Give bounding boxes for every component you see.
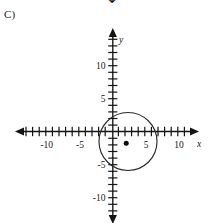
circle-center-point	[124, 141, 129, 146]
y-tick-label-5: 5	[101, 94, 106, 104]
x-axis-left-arrow-icon	[15, 127, 24, 135]
x-axis-label: x	[196, 139, 202, 149]
y-tick-label-10: 10	[96, 61, 106, 71]
x-axis-right-arrow-icon	[190, 127, 199, 135]
y-tick-label-neg10: -10	[93, 193, 106, 203]
coordinate-plane-svg: -10 -5 5 10 x	[0, 0, 214, 223]
y-axis-down-arrow-icon	[109, 215, 117, 223]
y-tick-label-neg5: -5	[98, 160, 106, 170]
y-axis: 10 5 -5 -10 y	[93, 28, 124, 223]
x-tick-label-neg5: -5	[76, 140, 84, 150]
y-axis-up-arrow-icon	[109, 28, 117, 37]
x-tick-label-5: 5	[144, 140, 149, 150]
y-axis-label: y	[118, 35, 124, 45]
graph-figure-c: ↓ C)	[0, 0, 214, 223]
x-tick-label-neg10: -10	[40, 140, 53, 150]
coordinate-plane: -10 -5 5 10 x	[0, 0, 214, 223]
x-tick-label-10: 10	[174, 140, 184, 150]
